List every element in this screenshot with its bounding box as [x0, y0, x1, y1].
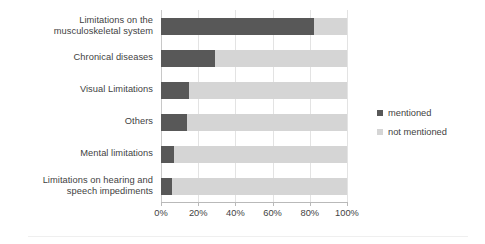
x-tick-label: 40% — [215, 208, 255, 218]
x-axis-tick-labels: 0%20%40%60%80%100% — [161, 208, 347, 222]
bar-row[interactable] — [161, 82, 347, 99]
x-tick-100pct — [347, 202, 348, 206]
category-axis: Limitations on themusculoskeletal system… — [0, 10, 157, 202]
bar-row[interactable] — [161, 178, 347, 195]
gridline-40pct — [235, 10, 236, 202]
legend-swatch-icon — [377, 110, 383, 116]
chart-legend: mentionednot mentioned — [377, 108, 482, 146]
bar-segment-not-mentioned[interactable] — [174, 146, 347, 163]
category-label-line: Limitations on the — [3, 15, 153, 26]
bar-row[interactable] — [161, 18, 347, 35]
bar-segment-mentioned[interactable] — [161, 82, 189, 99]
bar-row[interactable] — [161, 114, 347, 131]
category-label: Mental limitations — [3, 148, 153, 159]
gridline-60pct — [273, 10, 274, 202]
x-tick-label: 20% — [178, 208, 218, 218]
x-tick-label: 0% — [141, 208, 181, 218]
category-label-line: musculoskeletal system — [3, 26, 153, 37]
x-tick-label: 80% — [290, 208, 330, 218]
plot-area — [161, 10, 347, 202]
category-label: Chronical diseases — [3, 52, 153, 63]
x-tick-0pct — [161, 202, 162, 206]
category-label-line: speech impediments — [3, 186, 153, 197]
bar-segment-not-mentioned[interactable] — [215, 50, 347, 67]
category-label-line: Mental limitations — [3, 148, 153, 159]
stacked-bar-chart: Limitations on themusculoskeletal system… — [0, 0, 485, 244]
category-label-line: Others — [3, 116, 153, 127]
category-label-line: Limitations on hearing and — [3, 175, 153, 186]
x-tick-40pct — [235, 202, 236, 206]
bar-segment-mentioned[interactable] — [161, 178, 172, 195]
category-label-line: Visual Limitations — [3, 84, 153, 95]
gridline-20pct — [198, 10, 199, 202]
bar-row[interactable] — [161, 146, 347, 163]
legend-label: not mentioned — [388, 127, 447, 137]
category-label: Limitations on themusculoskeletal system — [3, 15, 153, 38]
bar-segment-mentioned[interactable] — [161, 50, 215, 67]
category-label: Limitations on hearing andspeech impedim… — [3, 175, 153, 198]
legend-label: mentioned — [388, 108, 431, 118]
category-label: Visual Limitations — [3, 84, 153, 95]
bar-segment-not-mentioned[interactable] — [172, 178, 347, 195]
bar-segment-mentioned[interactable] — [161, 114, 187, 131]
x-tick-60pct — [273, 202, 274, 206]
bar-segment-not-mentioned[interactable] — [314, 18, 347, 35]
category-label: Others — [3, 116, 153, 127]
bar-segment-not-mentioned[interactable] — [187, 114, 347, 131]
category-label-line: Chronical diseases — [3, 52, 153, 63]
legend-entry[interactable]: mentioned — [377, 108, 482, 118]
bar-row[interactable] — [161, 50, 347, 67]
x-tick-label: 100% — [327, 208, 367, 218]
gridline-0pct — [161, 10, 162, 202]
gridline-80pct — [310, 10, 311, 202]
x-tick-20pct — [198, 202, 199, 206]
legend-entry[interactable]: not mentioned — [377, 127, 482, 137]
bar-segment-mentioned[interactable] — [161, 146, 174, 163]
bar-segment-not-mentioned[interactable] — [189, 82, 347, 99]
bar-segment-mentioned[interactable] — [161, 18, 314, 35]
gridline-100pct — [347, 10, 348, 202]
x-tick-80pct — [310, 202, 311, 206]
bottom-divider — [28, 236, 468, 237]
x-axis-ticks — [161, 202, 347, 207]
gridlines — [161, 10, 347, 202]
x-tick-label: 60% — [253, 208, 293, 218]
legend-swatch-icon — [377, 129, 383, 135]
